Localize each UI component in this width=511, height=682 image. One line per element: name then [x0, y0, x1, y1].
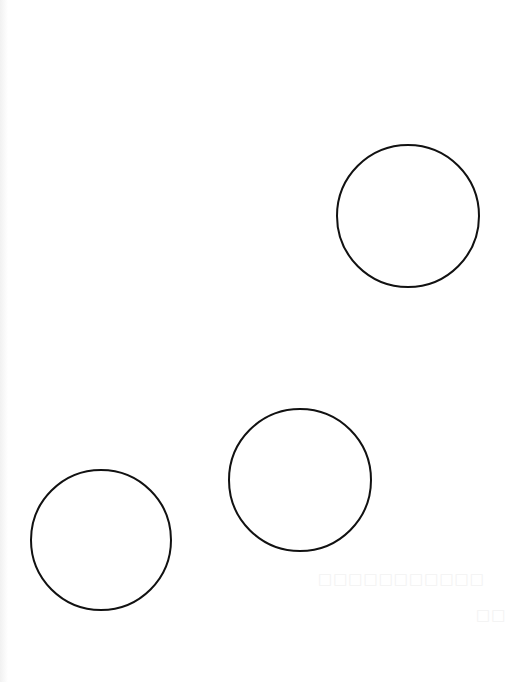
watermark-line-1: □□□□□□□□□□□	[318, 570, 485, 588]
circle-1	[337, 145, 479, 287]
watermark-line-2: □□	[476, 606, 506, 624]
circle-3	[31, 470, 171, 610]
circle-2	[229, 409, 371, 551]
